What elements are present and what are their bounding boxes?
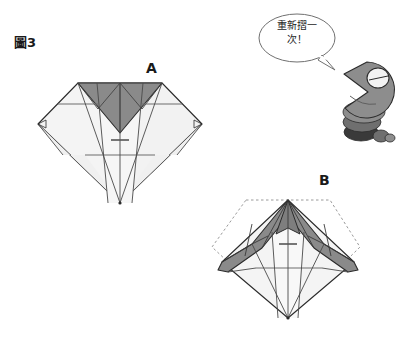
speech-bubble-text: 重新摺一 次！ [262, 19, 332, 47]
mascot-head [344, 62, 394, 118]
diagram-a [38, 83, 202, 205]
mascot-body-blob-foot-small [385, 134, 395, 142]
diagram-b [212, 200, 360, 320]
figure-number-label: 圖3 [14, 36, 36, 49]
panel-b-bottom-tip [286, 316, 289, 319]
speech-bubble-line-1: 重新摺一 [262, 19, 332, 33]
panel-a-label: A [146, 61, 157, 75]
figure-canvas [0, 0, 418, 350]
speech-bubble-line-2: 次！ [262, 33, 332, 47]
gray-creature-mascot [343, 62, 395, 142]
origami-instruction-figure: 圖3 A B 重新摺一 次！ [0, 0, 418, 350]
panel-a-bottom-tip [118, 201, 121, 204]
panel-b-label: B [319, 173, 330, 187]
